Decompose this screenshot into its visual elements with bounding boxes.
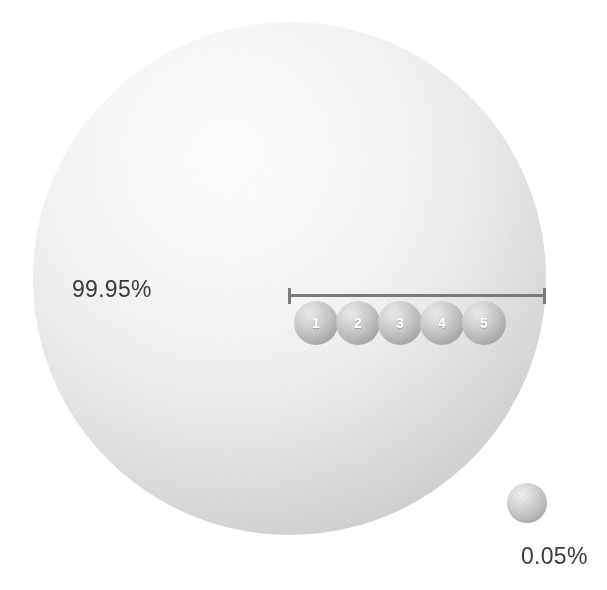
numbered-sphere-2: 2 — [336, 301, 380, 345]
numbered-sphere-3: 3 — [378, 301, 422, 345]
small-sphere-percentage-label: 0.05% — [521, 545, 588, 568]
numbered-sphere-label-5: 5 — [480, 316, 488, 330]
numbered-sphere-5: 5 — [462, 301, 506, 345]
numbered-sphere-1: 1 — [294, 301, 338, 345]
numbered-sphere-4: 4 — [420, 301, 464, 345]
large-sphere-percentage-label: 99.95% — [72, 278, 152, 301]
scale-bar-right-cap — [543, 288, 546, 304]
numbered-sphere-label-3: 3 — [396, 316, 404, 330]
small-sphere-0-05 — [507, 483, 547, 523]
scale-bar-rule — [288, 294, 546, 297]
numbered-sphere-label-1: 1 — [312, 316, 320, 330]
numbered-sphere-label-4: 4 — [438, 316, 446, 330]
numbered-sphere-label-2: 2 — [354, 316, 362, 330]
numbered-sphere-row: 1 2 3 4 5 — [294, 301, 504, 345]
small-sphere-texture — [507, 483, 547, 523]
figure-canvas: 99.95% 1 2 3 4 5 0.05% — [0, 0, 607, 590]
